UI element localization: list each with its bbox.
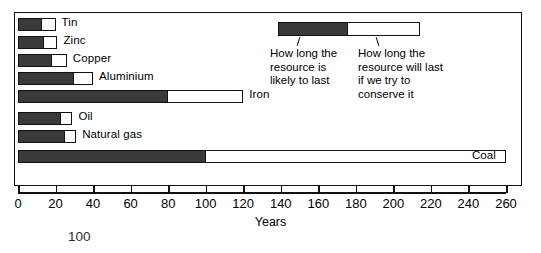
x-tick-label-20: 20 bbox=[48, 196, 62, 211]
x-tick-80 bbox=[168, 186, 170, 193]
x-tick-label-40: 40 bbox=[86, 196, 100, 211]
x-tick-label-120: 120 bbox=[232, 196, 254, 211]
x-axis-line bbox=[18, 192, 506, 194]
bar-segment-likely-aluminium bbox=[18, 72, 74, 85]
bar-row-aluminium: Aluminium bbox=[18, 72, 93, 85]
legend-swatch-dark bbox=[278, 22, 348, 36]
bar-label-aluminium: Aluminium bbox=[99, 70, 154, 83]
x-tick-180 bbox=[356, 186, 358, 193]
x-tick-200 bbox=[393, 186, 395, 193]
x-tick-label-180: 180 bbox=[345, 196, 367, 211]
bar-row-oil: Oil bbox=[18, 112, 72, 125]
stray-number-annotation: 100 bbox=[68, 229, 91, 244]
bar-segment-likely-iron bbox=[18, 90, 168, 103]
legend-label-likely-to-last: How long the resource is likely to last bbox=[270, 47, 356, 88]
x-tick-20 bbox=[56, 186, 58, 193]
x-tick-label-240: 240 bbox=[458, 196, 480, 211]
bar-segment-likely-coal bbox=[18, 150, 206, 163]
x-axis-title: Years bbox=[0, 215, 541, 229]
x-tick-100 bbox=[206, 186, 208, 193]
bar-row-natural-gas: Natural gas bbox=[18, 130, 76, 143]
legend-label-conserve: How long the resource will last if we tr… bbox=[358, 47, 468, 101]
x-tick-160 bbox=[318, 186, 320, 193]
x-tick-label-260: 260 bbox=[495, 196, 517, 211]
resource-lifetime-bar-chart: TinZincCopperAluminiumIronOilNatural gas… bbox=[0, 0, 541, 253]
bar-row-zinc: Zinc bbox=[18, 36, 57, 49]
bar-label-copper: Copper bbox=[73, 52, 111, 65]
bar-label-tin: Tin bbox=[62, 16, 78, 29]
x-tick-label-200: 200 bbox=[383, 196, 405, 211]
x-tick-140 bbox=[281, 186, 283, 193]
x-tick-label-220: 220 bbox=[420, 196, 442, 211]
bar-row-iron: Iron bbox=[18, 90, 243, 103]
bar-segment-likely-oil bbox=[18, 112, 61, 125]
x-tick-label-100: 100 bbox=[195, 196, 217, 211]
bar-label-iron: Iron bbox=[249, 88, 269, 101]
bar-row-copper: Copper bbox=[18, 54, 67, 67]
x-tick-220 bbox=[431, 186, 433, 193]
bar-segment-likely-copper bbox=[18, 54, 52, 67]
x-tick-60 bbox=[131, 186, 133, 193]
bar-label-natural-gas: Natural gas bbox=[82, 128, 142, 141]
bar-segment-likely-tin bbox=[18, 18, 42, 31]
bar-segment-likely-natural-gas bbox=[18, 130, 65, 143]
x-tick-260 bbox=[506, 186, 508, 193]
bar-label-coal: Coal bbox=[472, 149, 496, 162]
bar-row-tin: Tin bbox=[18, 18, 56, 31]
bar-segment-likely-zinc bbox=[18, 36, 44, 49]
bar-label-zinc: Zinc bbox=[63, 34, 85, 47]
x-tick-label-0: 0 bbox=[14, 196, 21, 211]
x-tick-label-160: 160 bbox=[307, 196, 329, 211]
x-tick-label-60: 60 bbox=[123, 196, 137, 211]
x-tick-label-140: 140 bbox=[270, 196, 292, 211]
x-tick-0 bbox=[18, 186, 20, 193]
x-tick-label-80: 80 bbox=[161, 196, 175, 211]
x-tick-120 bbox=[243, 186, 245, 193]
bar-row-coal: Coal bbox=[18, 150, 506, 163]
bar-label-oil: Oil bbox=[78, 110, 92, 123]
x-tick-240 bbox=[468, 186, 470, 193]
x-tick-40 bbox=[93, 186, 95, 193]
